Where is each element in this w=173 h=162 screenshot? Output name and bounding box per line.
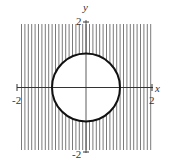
- y-axis-label: y: [82, 1, 88, 13]
- tick-label-x-max: 2: [149, 94, 155, 106]
- x-axis-label: x: [154, 82, 160, 94]
- tick-label-y-max: 2: [76, 15, 82, 27]
- diagram-canvas: y x -2 2 2 -2: [0, 0, 173, 162]
- tick-label-y-min: -2: [72, 148, 81, 160]
- tick-label-x-min: -2: [12, 94, 21, 106]
